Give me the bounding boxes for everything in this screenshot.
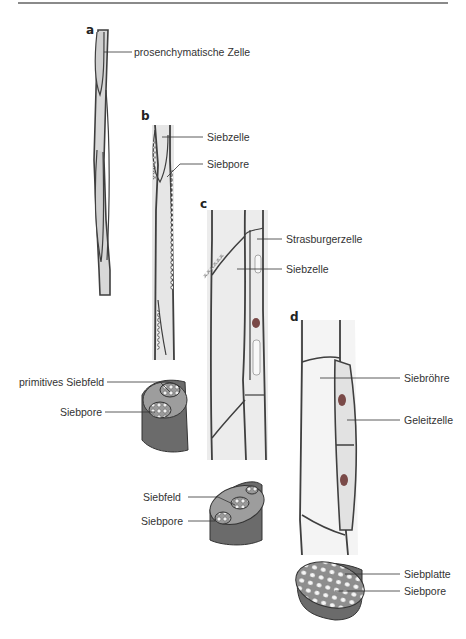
label-siebfeld: Siebfeld <box>143 491 181 503</box>
cross-section-sieve-field <box>205 479 270 545</box>
label-strasburgerzelle: Strasburgerzelle <box>286 233 362 245</box>
label-siebzelle-c: Siebzelle <box>286 263 329 275</box>
panel-a-cell <box>94 30 110 295</box>
panel-label-b: b <box>141 109 150 123</box>
label-siebpore-primitive: Siebpore <box>60 406 102 418</box>
cross-section-sieve-plate <box>290 555 369 620</box>
panel-c-cell <box>203 210 268 460</box>
label-siebroehre: Siebröhre <box>404 372 450 384</box>
panel-label-a: a <box>86 23 94 37</box>
label-siebzelle-b: Siebzelle <box>207 131 250 143</box>
label-siebpore-siebfeld: Siebpore <box>141 515 183 527</box>
sieve-element-diagram <box>0 0 466 639</box>
label-prosenchymatische-zelle: prosenchymatische Zelle <box>134 46 250 58</box>
label-siebpore-siebplatte: Siebpore <box>404 585 446 597</box>
label-siebpore-b: Siebpore <box>207 158 249 170</box>
label-geleitzelle: Geleitzelle <box>404 414 453 426</box>
panel-label-c: c <box>200 197 207 211</box>
label-primitives-siebfeld: primitives Siebfeld <box>19 376 104 388</box>
label-siebplatte: Siebplatte <box>404 568 451 580</box>
cross-section-primitive <box>142 380 188 452</box>
panel-b-cell <box>152 125 174 360</box>
panel-label-d: d <box>290 310 299 324</box>
panel-d-cell <box>300 320 358 555</box>
